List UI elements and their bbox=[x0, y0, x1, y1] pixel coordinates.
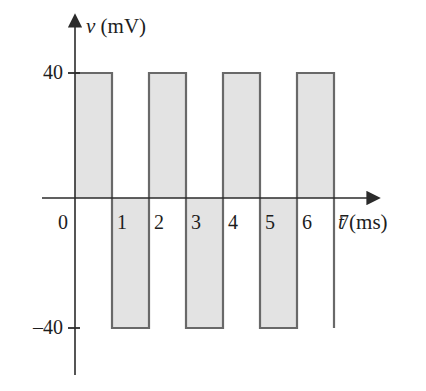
x-tick-label-7: 7 bbox=[339, 212, 349, 232]
x-tick-label-4: 4 bbox=[228, 212, 238, 232]
x-tick-label-1: 1 bbox=[117, 212, 127, 232]
waveform-plot bbox=[0, 0, 426, 391]
positive-pulse-fills bbox=[75, 73, 334, 198]
y-axis-title: v (mV) bbox=[86, 16, 146, 37]
pulse-fill-pos-4-5 bbox=[223, 73, 260, 198]
x-tick-label-5: 5 bbox=[265, 212, 275, 232]
pulse-fill-pos-6-7 bbox=[297, 73, 334, 198]
pulse-fill-pos-2-3 bbox=[149, 73, 186, 198]
y-tick-label-40: 40 bbox=[43, 62, 63, 82]
x-tick-label-3: 3 bbox=[191, 212, 201, 232]
y-axis-unit: (mV) bbox=[101, 14, 147, 38]
y-tick-label-neg40: –40 bbox=[33, 317, 63, 337]
x-axis-unit: (ms) bbox=[349, 210, 388, 234]
pulse-fill-pos-0-1 bbox=[75, 73, 112, 198]
y-axis-variable: v bbox=[86, 14, 95, 38]
x-tick-label-0: 0 bbox=[58, 212, 68, 232]
x-tick-label-2: 2 bbox=[154, 212, 164, 232]
waveform-figure: v (mV) t (ms) 40 –40 0 1 2 3 4 5 6 7 bbox=[0, 0, 426, 391]
x-tick-label-6: 6 bbox=[302, 212, 312, 232]
